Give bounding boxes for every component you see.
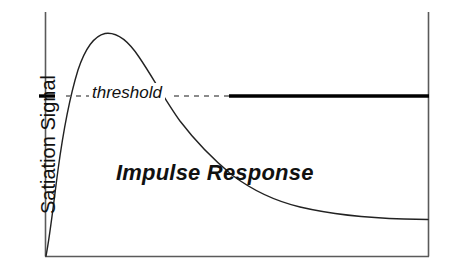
impulse-response-curve <box>46 33 428 256</box>
impulse-response-plot <box>0 0 454 275</box>
figure-container: Satiation Signal threshold Impulse Respo… <box>0 0 454 275</box>
y-axis-label: Satiation Signal <box>37 45 60 245</box>
threshold-label: threshold <box>89 83 165 103</box>
impulse-response-label: Impulse Response <box>116 160 314 186</box>
